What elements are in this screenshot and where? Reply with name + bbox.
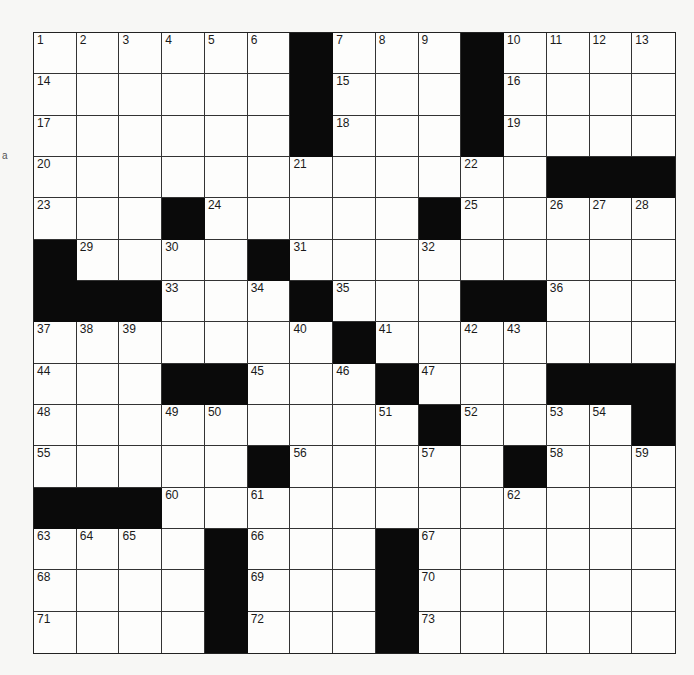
grid-cell[interactable]: 55 (34, 446, 77, 487)
grid-cell[interactable] (333, 529, 376, 570)
grid-cell[interactable]: 65 (119, 529, 162, 570)
grid-cell[interactable] (162, 570, 205, 611)
grid-cell[interactable]: 59 (632, 446, 675, 487)
grid-cell[interactable]: 26 (547, 198, 590, 239)
grid-cell[interactable]: 16 (504, 74, 547, 115)
grid-cell[interactable] (290, 529, 333, 570)
grid-cell[interactable] (205, 74, 248, 115)
grid-cell[interactable] (632, 74, 675, 115)
grid-cell[interactable]: 50 (205, 405, 248, 446)
grid-cell[interactable] (547, 612, 590, 653)
grid-cell[interactable] (119, 240, 162, 281)
grid-cell[interactable] (504, 405, 547, 446)
grid-cell[interactable] (119, 364, 162, 405)
grid-cell[interactable] (590, 612, 633, 653)
grid-cell[interactable]: 70 (419, 570, 462, 611)
grid-cell[interactable] (205, 157, 248, 198)
grid-cell[interactable]: 51 (376, 405, 419, 446)
grid-cell[interactable] (376, 198, 419, 239)
grid-cell[interactable] (205, 281, 248, 322)
grid-cell[interactable]: 32 (419, 240, 462, 281)
grid-cell[interactable]: 28 (632, 198, 675, 239)
grid-cell[interactable] (77, 364, 120, 405)
grid-cell[interactable]: 13 (632, 33, 675, 74)
grid-cell[interactable]: 56 (290, 446, 333, 487)
grid-cell[interactable] (290, 488, 333, 529)
grid-cell[interactable] (77, 74, 120, 115)
grid-cell[interactable] (504, 240, 547, 281)
grid-cell[interactable] (248, 157, 291, 198)
grid-cell[interactable] (632, 488, 675, 529)
grid-cell[interactable] (333, 446, 376, 487)
grid-cell[interactable]: 3 (119, 33, 162, 74)
grid-cell[interactable]: 23 (34, 198, 77, 239)
grid-cell[interactable] (632, 281, 675, 322)
grid-cell[interactable] (248, 198, 291, 239)
grid-cell[interactable] (547, 570, 590, 611)
grid-cell[interactable] (632, 529, 675, 570)
grid-cell[interactable] (590, 240, 633, 281)
grid-cell[interactable]: 10 (504, 33, 547, 74)
grid-cell[interactable] (632, 612, 675, 653)
grid-cell[interactable] (376, 446, 419, 487)
grid-cell[interactable] (119, 446, 162, 487)
grid-cell[interactable]: 36 (547, 281, 590, 322)
grid-cell[interactable]: 41 (376, 322, 419, 363)
grid-cell[interactable] (77, 157, 120, 198)
grid-cell[interactable] (590, 529, 633, 570)
grid-cell[interactable] (461, 570, 504, 611)
grid-cell[interactable] (248, 74, 291, 115)
grid-cell[interactable] (119, 157, 162, 198)
grid-cell[interactable]: 30 (162, 240, 205, 281)
grid-cell[interactable]: 40 (290, 322, 333, 363)
grid-cell[interactable]: 37 (34, 322, 77, 363)
grid-cell[interactable] (632, 116, 675, 157)
grid-cell[interactable] (290, 405, 333, 446)
grid-cell[interactable]: 48 (34, 405, 77, 446)
grid-cell[interactable]: 18 (333, 116, 376, 157)
grid-cell[interactable] (162, 116, 205, 157)
grid-cell[interactable]: 61 (248, 488, 291, 529)
grid-cell[interactable] (590, 570, 633, 611)
grid-cell[interactable] (376, 240, 419, 281)
grid-cell[interactable]: 44 (34, 364, 77, 405)
grid-cell[interactable] (119, 570, 162, 611)
grid-cell[interactable] (205, 116, 248, 157)
grid-cell[interactable]: 68 (34, 570, 77, 611)
grid-cell[interactable] (77, 116, 120, 157)
grid-cell[interactable]: 2 (77, 33, 120, 74)
grid-cell[interactable]: 49 (162, 405, 205, 446)
grid-cell[interactable] (205, 488, 248, 529)
grid-cell[interactable]: 14 (34, 74, 77, 115)
grid-cell[interactable]: 19 (504, 116, 547, 157)
grid-cell[interactable]: 11 (547, 33, 590, 74)
grid-cell[interactable]: 15 (333, 74, 376, 115)
grid-cell[interactable] (632, 240, 675, 281)
grid-cell[interactable]: 8 (376, 33, 419, 74)
grid-cell[interactable]: 31 (290, 240, 333, 281)
grid-cell[interactable] (162, 612, 205, 653)
grid-cell[interactable] (590, 116, 633, 157)
grid-cell[interactable] (162, 157, 205, 198)
grid-cell[interactable]: 1 (34, 33, 77, 74)
grid-cell[interactable] (504, 612, 547, 653)
grid-cell[interactable] (590, 488, 633, 529)
grid-cell[interactable]: 22 (461, 157, 504, 198)
grid-cell[interactable]: 54 (590, 405, 633, 446)
grid-cell[interactable]: 34 (248, 281, 291, 322)
grid-cell[interactable] (162, 74, 205, 115)
grid-cell[interactable] (590, 322, 633, 363)
grid-cell[interactable]: 71 (34, 612, 77, 653)
grid-cell[interactable]: 7 (333, 33, 376, 74)
grid-cell[interactable]: 72 (248, 612, 291, 653)
grid-cell[interactable]: 63 (34, 529, 77, 570)
grid-cell[interactable]: 27 (590, 198, 633, 239)
grid-cell[interactable] (590, 446, 633, 487)
grid-cell[interactable] (205, 446, 248, 487)
grid-cell[interactable] (333, 157, 376, 198)
grid-cell[interactable]: 35 (333, 281, 376, 322)
grid-cell[interactable] (376, 157, 419, 198)
grid-cell[interactable] (461, 364, 504, 405)
grid-cell[interactable] (590, 281, 633, 322)
grid-cell[interactable]: 62 (504, 488, 547, 529)
